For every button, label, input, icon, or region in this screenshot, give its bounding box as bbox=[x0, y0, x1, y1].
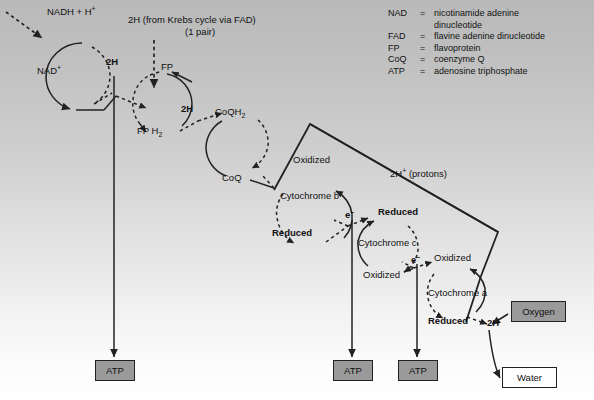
oxygen-box[interactable]: Oxygen bbox=[511, 301, 566, 322]
fp-label: FP bbox=[161, 62, 173, 72]
cytb-reduced-to-electron-dash bbox=[326, 226, 348, 242]
electron1-tail-dash bbox=[334, 220, 348, 226]
legend-term: flavine adenine dinucleotide bbox=[434, 31, 545, 43]
cytc-oxidized-label: Oxidized bbox=[363, 270, 400, 280]
nad-nadh-cycle bbox=[6, 12, 116, 110]
fp-to-fph2-arc bbox=[167, 74, 192, 126]
atp-box-3[interactable]: ATP bbox=[398, 360, 438, 381]
legend-equals: = bbox=[420, 31, 434, 43]
legend-equals: = bbox=[420, 66, 434, 78]
diagram-canvas: NAD = nicotinamide adenine dinucleotide … bbox=[0, 0, 594, 400]
atp-box-2-label: ATP bbox=[344, 365, 362, 376]
electron-label-2: e– bbox=[411, 253, 420, 266]
legend-equals bbox=[420, 20, 434, 32]
abbreviation-legend: NAD = nicotinamide adenine dinucleotide … bbox=[388, 8, 545, 77]
atp-box-1[interactable]: ATP bbox=[95, 360, 135, 381]
atp-box-1-label: ATP bbox=[106, 365, 124, 376]
legend-row: ATP = adenosine triphosphate bbox=[388, 66, 545, 78]
coq-to-coqh2-arc bbox=[206, 121, 226, 176]
water-box[interactable]: Water bbox=[502, 367, 557, 388]
legend-term: adenosine triphosphate bbox=[434, 66, 545, 78]
water-box-label: Water bbox=[517, 372, 542, 383]
legend-abbr: FP bbox=[388, 43, 420, 55]
2h-to-fp-dash bbox=[116, 96, 146, 108]
fp-fph2-cycle bbox=[133, 71, 198, 132]
legend-term: dinucleotide bbox=[434, 20, 545, 32]
cyta-label: Cytochrome a bbox=[428, 288, 487, 298]
legend-abbr: FAD bbox=[388, 31, 420, 43]
substrate-input-arrow bbox=[6, 12, 42, 38]
cyta-oxidized-label: Oxidized bbox=[434, 253, 471, 263]
twoh-label-1: 2H bbox=[106, 57, 118, 67]
fph2-to-fp-arc bbox=[133, 75, 150, 124]
krebs-source-label: 2H (from Krebs cycle via FAD) bbox=[128, 15, 256, 25]
legend-equals: = bbox=[420, 54, 434, 66]
cytb-reduced-label: Reduced bbox=[272, 228, 312, 238]
legend-abbr: CoQ bbox=[388, 54, 420, 66]
nad-to-2h-dash bbox=[94, 93, 112, 104]
coq-label: CoQ bbox=[222, 173, 242, 183]
nadh-label: NADH + H+ bbox=[47, 5, 96, 18]
legend-row: dinucleotide bbox=[388, 20, 545, 32]
legend-term: nicotinamide adenine bbox=[434, 8, 545, 20]
legend-equals: = bbox=[420, 43, 434, 55]
nad-label: NAD+ bbox=[37, 64, 61, 77]
legend-table: NAD = nicotinamide adenine dinucleotide … bbox=[388, 8, 545, 77]
legend-row: CoQ = coenzyme Q bbox=[388, 54, 545, 66]
cytc-reduced-label: Reduced bbox=[378, 207, 418, 217]
legend-row: FP = flavoprotein bbox=[388, 43, 545, 55]
cyta-reduced-label: Reduced bbox=[428, 316, 468, 326]
legend-term: flavoprotein bbox=[434, 43, 545, 55]
junction-2h-first bbox=[116, 40, 154, 108]
coqh2-label: CoQH2 bbox=[215, 107, 245, 120]
coqh2-to-coq-arc bbox=[252, 120, 268, 168]
legend-abbr: NAD bbox=[388, 8, 420, 20]
legend-row: NAD = nicotinamide adenine bbox=[388, 8, 545, 20]
cytc-label: Cytochrome c bbox=[358, 238, 417, 248]
cytb-oxidized-label: Oxidized bbox=[293, 155, 330, 165]
legend-term: coenzyme Q bbox=[434, 54, 545, 66]
atp-box-3-label: ATP bbox=[409, 365, 427, 376]
krebs-pair-label: (1 pair) bbox=[185, 27, 215, 37]
cyta-reduced-to-2h-dash bbox=[467, 317, 487, 324]
twoh-final-label: 2H bbox=[487, 318, 499, 328]
2h-to-water-arrow bbox=[489, 330, 500, 378]
legend-equals: = bbox=[420, 8, 434, 20]
cytb-label: Cytochrome b bbox=[280, 191, 339, 201]
twoh-label-2: 2H bbox=[181, 104, 193, 114]
legend-row: FAD = flavine adenine dinucleotide bbox=[388, 31, 545, 43]
atp-box-2[interactable]: ATP bbox=[333, 360, 373, 381]
legend-abbr: ATP bbox=[388, 66, 420, 78]
electron-label-1: e– bbox=[345, 208, 354, 221]
coq-to-cytb-line bbox=[250, 180, 274, 188]
fph2-label: FP H2 bbox=[137, 126, 162, 139]
oxygen-box-label: Oxygen bbox=[522, 306, 555, 317]
legend-abbr bbox=[388, 20, 420, 32]
protons-label: 2H+ (protons) bbox=[390, 167, 447, 180]
